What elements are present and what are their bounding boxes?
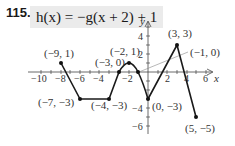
point-marker — [175, 43, 179, 47]
y-tick-label: −4 — [132, 103, 143, 114]
x-axis-label: x — [213, 72, 219, 84]
point-marker — [136, 70, 140, 74]
x-tick-label: −6 — [74, 73, 85, 84]
x-tick-label: −8 — [55, 73, 66, 84]
point-label: (−7, −3) — [38, 96, 75, 109]
x-tick-labels: −10 −8 −6 −4 −2 2 4 6 — [31, 73, 208, 84]
y-tick-label: 4 — [138, 31, 143, 42]
point-label: (−2, 1) — [110, 45, 140, 58]
point-label: (−9, 1) — [44, 47, 74, 60]
point-marker — [194, 115, 198, 119]
x-tick-label: −4 — [93, 73, 104, 84]
point-label: (0, −3) — [152, 100, 182, 113]
point-label: (5, −5) — [185, 122, 215, 135]
point-label: (−1, 0) — [190, 46, 220, 59]
point-label: (−3, 0) — [95, 56, 125, 69]
point-marker — [59, 61, 63, 65]
x-tick-label: 2 — [165, 73, 170, 84]
point-marker — [146, 97, 150, 101]
point-label: (−4, −3) — [91, 99, 128, 112]
function-graph: −10 −8 −6 −4 −2 2 4 6 4 2 −4 −6 y x (−9,… — [0, 0, 235, 146]
point-label: (3, 3) — [168, 27, 192, 40]
x-tick-label: −2 — [122, 73, 133, 84]
point-marker — [127, 61, 131, 65]
x-tick-label: 6 — [203, 73, 208, 84]
x-tick-label: −10 — [31, 73, 47, 84]
y-tick-label: −6 — [132, 121, 143, 132]
point-marker — [78, 97, 82, 101]
y-axis-label: y — [139, 15, 145, 27]
point-marker — [117, 70, 121, 74]
